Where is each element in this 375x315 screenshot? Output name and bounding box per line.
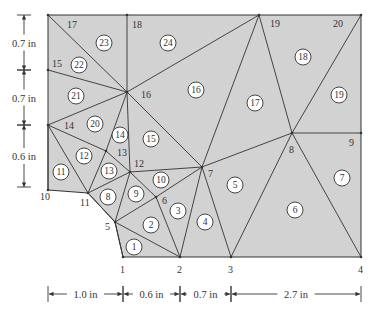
element-marker: 19 [331, 87, 347, 103]
svg-text:14: 14 [115, 130, 125, 140]
node-point [126, 14, 129, 17]
horizontal-dimension: 0.7 in [180, 286, 231, 302]
node-label: 19 [270, 18, 280, 29]
element-marker: 20 [87, 116, 103, 132]
svg-text:20: 20 [90, 119, 100, 129]
element-marker: 16 [188, 82, 204, 98]
horizontal-dimension: 1.0 in [48, 286, 123, 302]
node-label: 20 [333, 18, 343, 29]
element-marker: 2 [143, 217, 159, 233]
element-marker: 24 [160, 35, 176, 51]
node-label: 9 [349, 137, 354, 148]
svg-text:0.7 in: 0.7 in [12, 93, 37, 104]
vertical-dimension: 0.6 in [4, 125, 44, 187]
svg-text:2: 2 [149, 220, 154, 230]
element-marker: 4 [197, 214, 213, 230]
node-point [105, 150, 108, 153]
element-marker: 22 [71, 57, 87, 73]
node-label: 18 [132, 19, 142, 30]
vertical-dimension: 0.7 in [4, 15, 44, 70]
svg-text:15: 15 [146, 134, 156, 144]
svg-text:0.7 in: 0.7 in [194, 289, 219, 300]
element-marker: 17 [247, 95, 263, 111]
node-point [126, 91, 129, 94]
node-label: 16 [141, 89, 151, 100]
element-marker: 15 [143, 131, 159, 147]
node-label: 11 [80, 197, 90, 208]
svg-text:2.7 in: 2.7 in [284, 289, 309, 300]
node-label: 3 [228, 264, 233, 275]
node-label: 17 [67, 19, 77, 30]
svg-text:0.6 in: 0.6 in [140, 289, 165, 300]
element-marker: 14 [112, 127, 128, 143]
svg-text:21: 21 [71, 91, 81, 101]
node-label: 8 [289, 144, 294, 155]
node-label: 13 [117, 147, 127, 158]
element-marker: 3 [170, 203, 186, 219]
node-point [47, 14, 50, 17]
element-marker: 9 [128, 186, 144, 202]
element-marker: 21 [68, 88, 84, 104]
element-marker: 6 [287, 202, 303, 218]
node-point [155, 196, 158, 199]
node-point [47, 124, 50, 127]
svg-text:0.7 in: 0.7 in [12, 38, 37, 49]
svg-text:1.0 in: 1.0 in [74, 289, 99, 300]
vertical-dimension: 0.7 in [4, 70, 44, 125]
svg-text:24: 24 [163, 38, 173, 48]
svg-text:18: 18 [298, 52, 308, 62]
element-marker: 7 [334, 170, 350, 186]
node-point [87, 192, 90, 195]
svg-text:1: 1 [132, 242, 137, 252]
node-label: 4 [358, 264, 363, 275]
fem-mesh-diagram: 1234567891011121314151617181920 12345678… [0, 0, 375, 315]
svg-text:22: 22 [74, 60, 84, 70]
svg-text:17: 17 [250, 98, 260, 108]
node-label: 2 [177, 264, 182, 275]
node-point [47, 69, 50, 72]
node-label: 7 [208, 168, 213, 179]
element-marker: 12 [76, 148, 92, 164]
svg-text:23: 23 [99, 38, 109, 48]
node-point [122, 256, 125, 259]
svg-text:19: 19 [334, 90, 344, 100]
node-point [360, 132, 363, 135]
svg-text:7: 7 [340, 173, 345, 183]
node-label: 1 [120, 264, 125, 275]
node-point [360, 14, 363, 17]
svg-text:9: 9 [134, 189, 139, 199]
svg-text:13: 13 [104, 166, 114, 176]
node-point [129, 171, 132, 174]
element-marker: 1 [126, 239, 142, 255]
svg-text:12: 12 [79, 151, 89, 161]
element-marker: 23 [96, 35, 112, 51]
svg-text:3: 3 [176, 206, 181, 216]
node-point [179, 256, 182, 259]
node-label: 10 [40, 191, 50, 202]
node-label: 15 [52, 58, 62, 69]
element-marker: 13 [101, 163, 117, 179]
node-label: 6 [162, 195, 167, 206]
node-point [360, 256, 363, 259]
svg-text:11: 11 [56, 167, 65, 177]
svg-text:4: 4 [203, 217, 208, 227]
element-marker: 5 [227, 177, 243, 193]
node-label: 5 [105, 221, 110, 232]
node-label: 12 [134, 158, 144, 169]
svg-text:0.6 in: 0.6 in [12, 151, 37, 162]
horizontal-dimension: 2.7 in [231, 286, 361, 302]
node-point [114, 221, 117, 224]
node-label: 14 [64, 120, 74, 131]
element-marker: 8 [100, 189, 116, 205]
svg-text:10: 10 [156, 175, 166, 185]
svg-text:16: 16 [191, 85, 201, 95]
svg-text:8: 8 [106, 192, 111, 202]
node-point [291, 132, 294, 135]
element-marker: 18 [295, 49, 311, 65]
svg-text:6: 6 [293, 205, 298, 215]
node-point [258, 14, 261, 17]
element-marker: 10 [153, 172, 169, 188]
horizontal-dimension: 0.6 in [123, 286, 180, 302]
element-marker: 11 [53, 164, 69, 180]
node-point [201, 166, 204, 169]
